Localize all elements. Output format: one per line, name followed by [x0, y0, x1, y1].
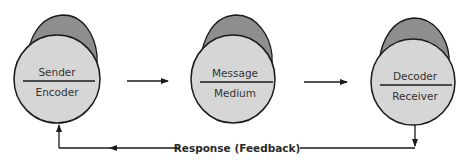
circle-face-receiver	[371, 39, 455, 125]
label-encoder: Encoder	[36, 86, 80, 98]
label-message: Message	[212, 67, 258, 79]
circle-face-message	[191, 35, 275, 123]
circle-face-sender	[14, 35, 100, 123]
node-sender-encoder: Sender Encoder	[14, 15, 100, 123]
label-sender: Sender	[38, 66, 76, 78]
communication-diagram: Sender Encoder Message Medium Decoder Re…	[0, 0, 475, 163]
label-receiver: Receiver	[392, 90, 438, 102]
node-message-medium: Message Medium	[191, 15, 275, 123]
label-decoder: Decoder	[393, 70, 438, 82]
node-decoder-receiver: Decoder Receiver	[371, 18, 455, 125]
feedback-loop: Response (Feedback)	[59, 125, 415, 154]
label-medium: Medium	[214, 87, 256, 99]
feedback-label: Response (Feedback)	[174, 142, 301, 154]
